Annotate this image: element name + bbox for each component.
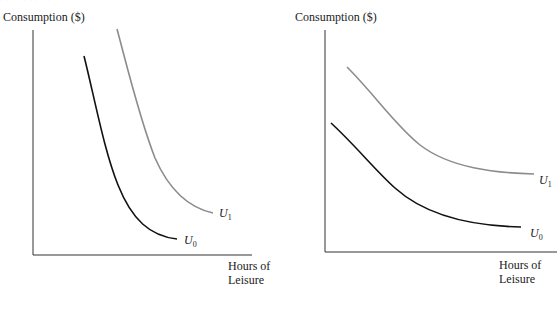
indifference-curves-diagram: U1 U0 U1 U0 — [0, 0, 557, 313]
left-curve-u0 — [84, 56, 177, 239]
right-curve-u0 — [331, 123, 521, 227]
right-panel: U1 U0 — [325, 30, 557, 252]
left-panel: U1 U0 — [33, 29, 252, 255]
right-curve-u1 — [347, 67, 534, 174]
right-label-u0: U0 — [530, 226, 543, 242]
left-curve-u1 — [117, 29, 213, 213]
left-label-u1: U1 — [219, 206, 232, 222]
left-label-u0: U0 — [184, 233, 197, 249]
right-label-u1: U1 — [539, 173, 552, 189]
